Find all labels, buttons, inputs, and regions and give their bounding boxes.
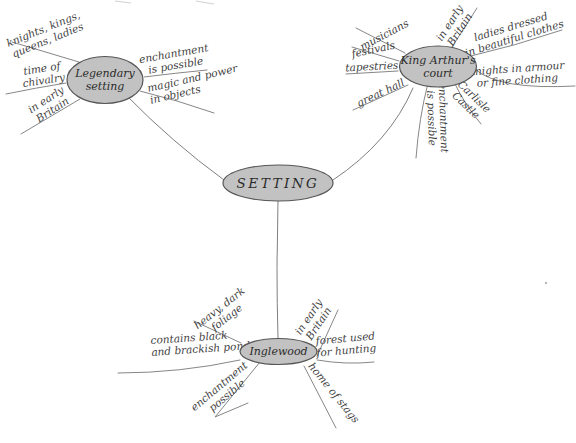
node-legendary-setting-label: setting [86,80,125,93]
spoke-contains-black-pond [118,360,240,373]
node-inglewood-label: Inglewood [248,345,307,358]
connector-legendary-setting [127,96,224,180]
node-king-arthurs-court-label: court [423,67,453,80]
node-setting-label: SETTING [237,175,320,191]
scan-artifact-dot [545,282,547,284]
spoke-forest-used-for-hunting [317,360,374,363]
mind-map-canvas: knights, kings, queens, ladies time of c… [0,0,576,443]
label-great-hall: great hall [354,76,406,109]
label-court-enchantment: enchantment is possible [425,83,451,155]
label-knights-in-armour: knights in armour or fine clothing [468,59,566,90]
label-line: is possible [425,90,439,146]
mind-map-page: knights, kings, queens, ladies time of c… [0,0,576,443]
label-line: great hall [354,76,406,109]
branch-inglewood: heavy, dark foliage contains black and b… [118,284,377,428]
node-king-arthurs-court-label: King Arthur's [399,54,475,67]
scan-artifact-top-mid [196,1,214,4]
node-legendary-setting-label: Legendary [74,67,135,80]
branch-legendary-setting: knights, kings, queens, ladies time of c… [5,8,242,134]
branch-king-arthurs-court: musicians festivals tapestries great hal… [345,2,575,158]
label-court-in-early-britain: in early Britain [433,2,476,50]
center-node: SETTING [223,165,333,201]
label-ladies-dressed: ladies dressed in beautiful clothes [460,5,566,58]
connector-inglewood [277,200,278,338]
scan-artifact-top-left [115,1,131,3]
label-forest-used-for-hunting: forest used for hunting [314,329,377,358]
label-contains-black-pond: contains black and brackish pond [150,327,250,358]
label-home-of-stags: home of stags [306,360,362,426]
label-line: home of stags [306,360,362,426]
